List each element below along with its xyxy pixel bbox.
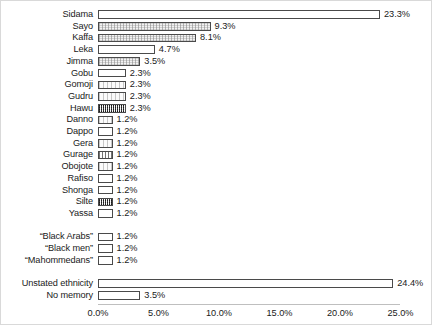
bar-row: Rafiso1.2% (1, 173, 432, 185)
bar-row: Obojote1.2% (1, 161, 432, 173)
bar-row: Jimma3.5% (1, 56, 432, 68)
bar-row: Shonga1.2% (1, 185, 432, 197)
category-label: Sidama (1, 9, 93, 21)
bar-value-label: 3.5% (144, 56, 165, 68)
category-label: Gudru (1, 91, 93, 103)
bar-row: Silte1.2% (1, 196, 432, 208)
category-label: Kaffa (1, 32, 93, 44)
bar-value-label: 2.3% (130, 79, 151, 91)
bar-row: No memory3.5% (1, 290, 432, 302)
category-label: Silte (1, 196, 93, 208)
bar-row: Danno1.2% (1, 114, 432, 126)
bar (98, 186, 113, 195)
bar (98, 209, 113, 218)
chart-frame: Sidama23.3%Sayo9.3%Kaffa8.1%Leka4.7%Jimm… (0, 0, 432, 325)
bar-value-label: 1.2% (117, 243, 138, 255)
bar-value-label: 1.2% (117, 208, 138, 220)
bar-value-label: 24.4% (397, 278, 423, 290)
category-label: Dappo (1, 126, 93, 138)
category-label: Shonga (1, 185, 93, 197)
bar-row: Gobu2.3% (1, 68, 432, 80)
bar-value-label: 2.3% (130, 68, 151, 80)
bar (98, 92, 126, 101)
bar-row: Dappo1.2% (1, 126, 432, 138)
bar-value-label: 1.2% (117, 161, 138, 173)
bar-row: Sayo9.3% (1, 21, 432, 33)
bar-value-label: 4.7% (159, 44, 180, 56)
bar-row: Kaffa8.1% (1, 32, 432, 44)
category-label: No memory (1, 290, 93, 302)
bar-value-label: 3.5% (144, 290, 165, 302)
bar-value-label: 1.2% (117, 231, 138, 243)
bar-row: Sidama23.3% (1, 9, 432, 21)
bar (98, 81, 126, 90)
bar-value-label: 1.2% (117, 196, 138, 208)
bar-value-label: 2.3% (130, 91, 151, 103)
bar-row: “Mahommedans”1.2% (1, 255, 432, 267)
category-label: Gobu (1, 68, 93, 80)
category-label: “Mahommedans” (1, 255, 93, 267)
bar-value-label: 1.2% (117, 255, 138, 267)
x-axis-tick-label: 25.0% (373, 308, 429, 318)
bar (98, 45, 155, 54)
bar-value-label: 1.2% (117, 149, 138, 161)
bar-value-label: 1.2% (117, 173, 138, 185)
bar-row: Gudru2.3% (1, 91, 432, 103)
bar-value-label: 1.2% (117, 185, 138, 197)
bar-value-label: 1.2% (117, 114, 138, 126)
x-axis-line (98, 304, 400, 305)
bar-row: Gera1.2% (1, 138, 432, 150)
bar (98, 22, 211, 31)
bar (98, 34, 196, 43)
category-label: Yassa (1, 208, 93, 220)
bar (98, 57, 140, 66)
bar (98, 116, 113, 125)
bar (98, 279, 393, 288)
bar (98, 104, 126, 113)
category-label: Jimma (1, 56, 93, 68)
x-axis-tick-label: 10.0% (191, 308, 247, 318)
x-axis-tick-label: 0.0% (70, 308, 126, 318)
bar (98, 174, 113, 183)
category-label: Sayo (1, 21, 93, 33)
category-label: Leka (1, 44, 93, 56)
category-label: Gurage (1, 149, 93, 161)
bar (98, 10, 380, 19)
bar-chart-plot-area: Sidama23.3%Sayo9.3%Kaffa8.1%Leka4.7%Jimm… (1, 1, 432, 325)
category-label: Obojote (1, 161, 93, 173)
category-label: Rafiso (1, 173, 93, 185)
bar (98, 198, 113, 207)
bar-row: “Black men”1.2% (1, 243, 432, 255)
bar (98, 127, 113, 136)
category-label: Gera (1, 138, 93, 150)
x-axis-tick-label: 15.0% (252, 308, 308, 318)
x-axis-tick-label: 5.0% (131, 308, 187, 318)
bar-row: “Black Arabs”1.2% (1, 231, 432, 243)
bar (98, 139, 113, 148)
category-label: Unstated ethnicity (1, 278, 93, 290)
bar-value-label: 1.2% (117, 126, 138, 138)
bar-row: Gomoji2.3% (1, 79, 432, 91)
bar-row: Leka4.7% (1, 44, 432, 56)
bar (98, 256, 113, 265)
category-label: “Black Arabs” (1, 231, 93, 243)
bar (98, 291, 140, 300)
bar-value-label: 23.3% (384, 9, 410, 21)
x-axis-tick-label: 20.0% (312, 308, 368, 318)
bar-row: Hawu2.3% (1, 103, 432, 115)
bar-row: Unstated ethnicity24.4% (1, 278, 432, 290)
bar-row: Yassa1.2% (1, 208, 432, 220)
bar-row: Gurage1.2% (1, 149, 432, 161)
category-label: Gomoji (1, 79, 93, 91)
bar-value-label: 9.3% (215, 21, 236, 33)
bar-value-label: 8.1% (200, 32, 221, 44)
category-label: Danno (1, 114, 93, 126)
bar (98, 162, 113, 171)
bar-value-label: 2.3% (130, 103, 151, 115)
category-label: Hawu (1, 103, 93, 115)
bar-value-label: 1.2% (117, 138, 138, 150)
bar (98, 244, 113, 253)
bar (98, 151, 113, 160)
bar (98, 69, 126, 78)
category-label: “Black men” (1, 243, 93, 255)
